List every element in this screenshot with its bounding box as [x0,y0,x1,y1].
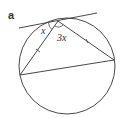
angle-arc-3x [55,25,63,27]
angle-arc-x [49,23,53,30]
tangent-line [19,13,97,28]
angle-label-3x: 3x [56,32,67,43]
chord-base [20,60,114,75]
circle [19,18,115,114]
geometry-diagram: x 3x [0,0,123,118]
angle-label-x: x [40,25,46,36]
chord-left [20,21,58,75]
